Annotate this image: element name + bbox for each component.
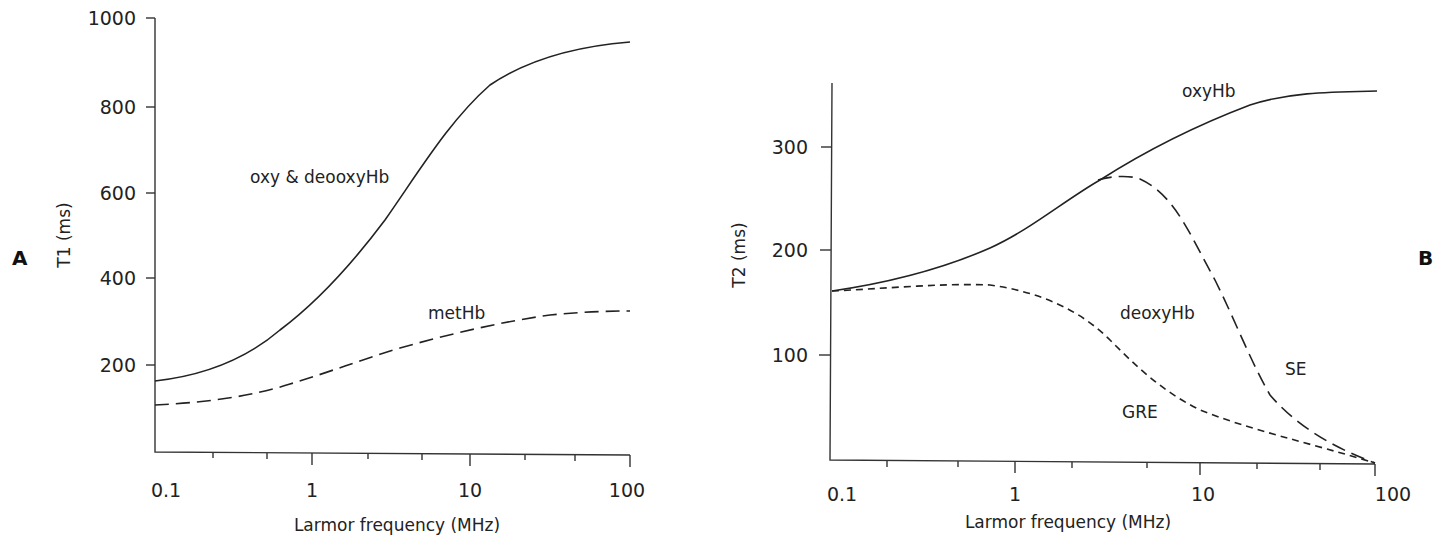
svg-text:1: 1: [306, 479, 318, 501]
x-axis-title-b: Larmor frequency (MHz): [965, 512, 1171, 532]
svg-text:10: 10: [458, 479, 482, 501]
x-tick-labels-b: 0.1 1 10 100: [827, 483, 1411, 505]
svg-text:200: 200: [772, 239, 808, 261]
svg-text:600: 600: [100, 182, 136, 204]
svg-text:300: 300: [772, 136, 808, 158]
svg-text:1: 1: [1009, 483, 1021, 505]
svg-text:400: 400: [100, 267, 136, 289]
y-tick-labels-a: 1000 800 600 400 200: [88, 7, 136, 376]
svg-text:0.1: 0.1: [827, 483, 857, 505]
series-methb-t1: [155, 311, 630, 405]
panel-label-a: A: [12, 246, 28, 270]
axes-a: [155, 18, 630, 455]
x-tick-labels-a: 0.1 1 10 100: [151, 479, 645, 501]
y-axis-title-a: T1 (ms): [54, 202, 74, 268]
annotation-oxyhb: oxyHb: [1182, 81, 1236, 101]
series-oxyhb-t2: [832, 91, 1377, 291]
annotation-oxy-deoxy: oxy & deooxyHb: [250, 167, 389, 187]
annotation-methb: metHb: [428, 303, 485, 323]
annotation-gre: GRE: [1122, 402, 1158, 422]
svg-text:100: 100: [1375, 483, 1411, 505]
svg-text:1000: 1000: [88, 7, 136, 29]
figure: A T1 (ms) 1000 800 600 400 200: [0, 0, 1440, 559]
svg-text:100: 100: [772, 344, 808, 366]
chart-panel-b: B T2 (ms) 300 200 100 0.1: [729, 81, 1433, 532]
x-axis-title-a: Larmor frequency (MHz): [294, 515, 500, 535]
annotation-se: SE: [1285, 359, 1307, 379]
y-axis-title-b: T2 (ms): [729, 222, 749, 288]
svg-text:0.1: 0.1: [151, 479, 181, 501]
chart-panel-a: A T1 (ms) 1000 800 600 400 200: [12, 7, 645, 535]
annotation-deoxyhb: deoxyHb: [1120, 303, 1195, 323]
svg-text:800: 800: [100, 96, 136, 118]
svg-text:100: 100: [609, 479, 645, 501]
panel-label-b: B: [1418, 246, 1433, 270]
series-oxy-deoxy-t1: [155, 42, 630, 381]
svg-text:10: 10: [1191, 483, 1215, 505]
y-tick-labels-b: 300 200 100: [772, 136, 808, 366]
axes-b: [830, 83, 1375, 464]
y-ticks-a: [146, 18, 155, 365]
svg-text:200: 200: [100, 354, 136, 376]
